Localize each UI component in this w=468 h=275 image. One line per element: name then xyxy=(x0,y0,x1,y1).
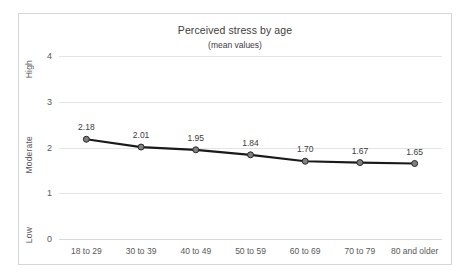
y-tick-label-2: 2 xyxy=(47,143,52,153)
data-point-marker[interactable] xyxy=(193,147,199,153)
y-tick-label-4: 4 xyxy=(47,51,52,61)
x-tick-label: 50 to 59 xyxy=(235,246,266,256)
data-label: 2.01 xyxy=(133,130,150,140)
x-tick-label: 30 to 39 xyxy=(126,246,157,256)
y-band-label-high: High xyxy=(24,60,34,78)
chart-container: Perceived stress by age (mean values) Hi… xyxy=(18,13,452,265)
data-point-marker[interactable] xyxy=(412,161,418,167)
x-tick-label: 70 to 79 xyxy=(345,246,376,256)
chart-title: Perceived stress by age xyxy=(19,24,451,36)
y-tick-label-3: 3 xyxy=(47,97,52,107)
data-label: 1.70 xyxy=(297,144,314,154)
y-tick-label-1: 1 xyxy=(47,188,52,198)
y-tick-label-0: 0 xyxy=(47,234,52,244)
data-point-marker[interactable] xyxy=(302,158,308,164)
data-label: 1.67 xyxy=(352,146,369,156)
data-point-marker[interactable] xyxy=(357,160,363,166)
data-point-marker[interactable] xyxy=(83,136,89,142)
chart-subtitle: (mean values) xyxy=(19,40,451,50)
data-label: 2.18 xyxy=(78,122,95,132)
y-band-label-moderate: Moderate xyxy=(24,136,34,174)
gridline-0 xyxy=(59,239,442,240)
data-label: 1.84 xyxy=(242,138,259,148)
x-tick-label: 40 to 49 xyxy=(180,246,211,256)
y-band-label-low: Low xyxy=(24,227,34,243)
x-tick-label: 60 to 69 xyxy=(290,246,321,256)
data-label: 1.65 xyxy=(406,147,423,157)
x-tick-label: 18 to 29 xyxy=(71,246,102,256)
data-point-marker[interactable] xyxy=(138,144,144,150)
plot-area: 43210 2.182.011.951.841.701.671.65 18 to… xyxy=(59,56,442,239)
data-label: 1.95 xyxy=(188,133,205,143)
x-tick-label: 80 and older xyxy=(391,246,438,256)
data-point-marker[interactable] xyxy=(248,152,254,158)
